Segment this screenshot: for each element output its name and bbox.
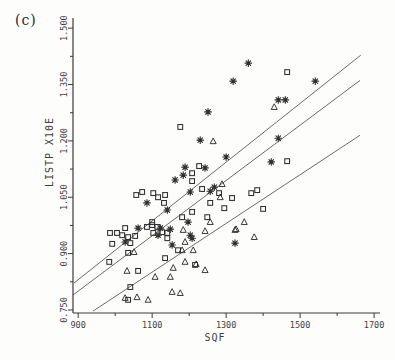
square-marker: [230, 196, 235, 201]
triangle-marker: [177, 290, 183, 296]
square-marker: [165, 236, 170, 241]
square-marker: [285, 159, 290, 164]
asterisk-marker: [202, 165, 209, 172]
square-marker: [163, 193, 168, 198]
square-marker: [197, 164, 202, 169]
y-tick-label: 1.500: [59, 15, 69, 41]
triangle-marker: [170, 265, 176, 271]
asterisk-marker: [211, 184, 218, 191]
asterisk-marker: [155, 232, 162, 239]
square-marker: [190, 179, 195, 184]
square-marker: [110, 241, 115, 246]
triangle-marker: [190, 247, 196, 253]
square-marker: [255, 188, 260, 193]
square-marker: [205, 215, 210, 220]
square-marker: [136, 269, 141, 274]
series-squares: [107, 70, 290, 303]
square-marker: [156, 195, 161, 200]
x-axis-title: SQF: [204, 332, 225, 343]
asterisk-marker: [312, 78, 319, 85]
asterisk-marker: [282, 97, 289, 104]
scatter-plot-figure: (c) 90011001300150017000.7500.9001.0501.…: [0, 0, 395, 360]
x-tick-label: 1500: [290, 320, 310, 330]
square-marker: [190, 210, 195, 215]
square-marker: [128, 241, 133, 246]
triangle-marker: [145, 297, 151, 303]
x-tick-label: 1700: [364, 320, 384, 330]
y-tick-label: 1.350: [59, 72, 69, 98]
square-marker: [222, 206, 227, 211]
square-marker: [249, 191, 254, 196]
asterisk-marker: [189, 235, 196, 242]
triangle-marker: [241, 219, 247, 225]
x-tick-label: 900: [70, 320, 85, 330]
square-marker: [108, 231, 113, 236]
asterisk-marker: [182, 164, 189, 171]
asterisk-marker: [245, 60, 252, 67]
triangle-marker: [271, 104, 277, 110]
x-tick-label: 1100: [142, 320, 162, 330]
y-tick-label: 0.750: [59, 297, 69, 323]
square-marker: [261, 207, 266, 212]
asterisk-marker: [268, 159, 275, 166]
asterisk-marker: [230, 78, 237, 85]
asterisk-marker: [180, 172, 187, 179]
axes: 90011001300150017000.7500.9001.0501.2001…: [44, 15, 385, 343]
square-marker: [163, 256, 168, 261]
triangle-marker: [210, 138, 216, 144]
triangle-marker: [182, 259, 188, 265]
square-marker: [123, 226, 128, 231]
asterisk-marker: [157, 225, 164, 232]
square-marker: [190, 171, 195, 176]
square-marker: [180, 215, 185, 220]
square-marker: [162, 200, 167, 205]
square-marker: [150, 223, 155, 228]
triangle-marker: [202, 228, 208, 234]
triangle-marker: [202, 267, 208, 273]
asterisk-marker: [275, 97, 282, 104]
asterisk-marker: [275, 135, 282, 142]
asterisk-marker: [185, 219, 192, 226]
triangle-marker: [152, 274, 158, 280]
chart-canvas: 90011001300150017000.7500.9001.0501.2001…: [0, 0, 395, 360]
square-marker: [178, 125, 183, 130]
triangle-marker: [124, 268, 130, 274]
asterisk-marker: [167, 226, 174, 233]
triangle-marker: [217, 194, 223, 200]
asterisk-marker: [172, 177, 179, 184]
square-marker: [134, 193, 139, 198]
square-marker: [151, 191, 156, 196]
asterisk-marker: [135, 225, 142, 232]
square-marker: [120, 233, 125, 238]
y-axis-title: LISTP X10E: [44, 117, 55, 187]
triangle-marker: [180, 227, 186, 233]
square-marker: [285, 70, 290, 75]
asterisk-marker: [144, 200, 151, 207]
x-tick-label: 1300: [216, 320, 236, 330]
asterisk-marker: [164, 207, 171, 214]
square-marker: [107, 259, 112, 264]
asterisk-marker: [169, 242, 176, 249]
asterisk-marker: [223, 154, 230, 161]
square-marker: [200, 187, 205, 192]
y-tick-label: 1.200: [59, 128, 69, 154]
square-marker: [140, 190, 145, 195]
scatter-points: [107, 60, 319, 302]
regression-lines: [73, 55, 361, 311]
upper-fit-line: [74, 55, 361, 283]
asterisk-marker: [122, 239, 129, 246]
triangle-marker: [251, 234, 257, 240]
asterisk-marker: [232, 240, 239, 247]
y-tick-label: 0.900: [59, 241, 69, 267]
asterisk-marker: [187, 189, 194, 196]
triangle-marker: [131, 249, 137, 255]
triangle-marker: [169, 289, 175, 295]
square-marker: [115, 231, 120, 236]
triangle-marker: [193, 261, 199, 267]
square-marker: [208, 200, 213, 205]
asterisk-marker: [205, 109, 212, 116]
y-tick-label: 1.050: [59, 184, 69, 210]
asterisk-marker: [197, 137, 204, 144]
triangle-marker: [167, 274, 173, 280]
triangle-marker: [134, 294, 140, 300]
